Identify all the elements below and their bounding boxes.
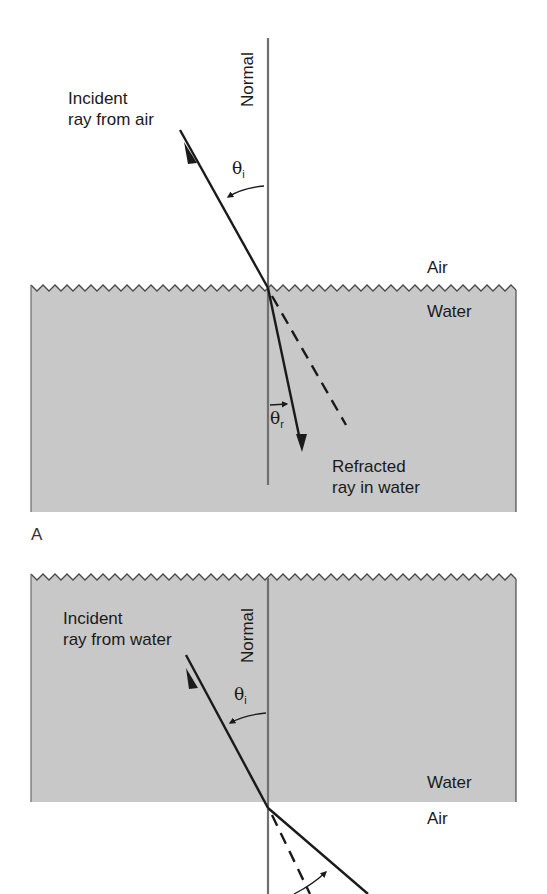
refracted-label-a-line1: Refracted — [332, 456, 420, 477]
incident-label-a: Incident ray from air — [68, 88, 154, 130]
panel-a-letter: A — [31, 525, 42, 545]
incident-label-b-line2: ray from water — [63, 629, 172, 650]
upper-medium-label-b: Water — [427, 772, 472, 793]
lower-medium-label-b: Air — [427, 808, 448, 829]
incident-label-a-line2: ray from air — [68, 109, 154, 130]
incident-label-b-line1: Incident — [63, 608, 172, 629]
normal-label-a: Normal — [238, 52, 258, 107]
incident-ray-a — [180, 130, 268, 288]
theta-r-arc-b — [294, 872, 326, 894]
theta-i-arc-a — [228, 186, 264, 197]
theta-r-label-a: θr — [270, 408, 284, 430]
refracted-ray-b — [268, 808, 368, 894]
refraction-diagram — [0, 0, 547, 894]
theta-i-label-a: θi — [232, 158, 245, 180]
incident-label-a-line1: Incident — [68, 88, 154, 109]
upper-medium-label-a: Air — [427, 257, 448, 278]
normal-label-b: Normal — [238, 608, 258, 663]
theta-i-label-b: θi — [234, 684, 247, 706]
lower-medium-label-a: Water — [427, 301, 472, 322]
incident-arrowhead-a — [184, 142, 197, 164]
incident-label-b: Incident ray from water — [63, 608, 172, 650]
refracted-label-a: Refracted ray in water — [332, 456, 420, 498]
refracted-label-a-line2: ray in water — [332, 477, 420, 498]
